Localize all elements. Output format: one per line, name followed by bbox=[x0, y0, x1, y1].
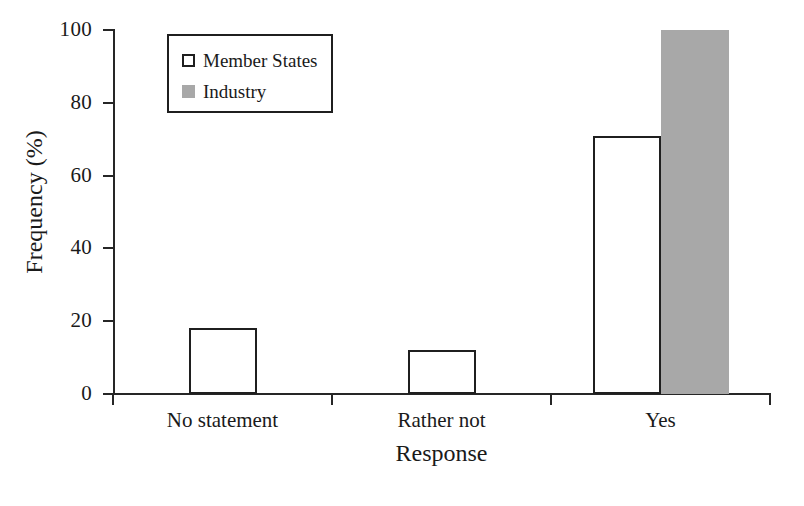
x-axis-tick bbox=[550, 394, 552, 405]
x-axis-tick-label: Yes bbox=[645, 408, 676, 432]
bar-member-states-yes bbox=[593, 136, 661, 394]
legend-entry-industry: Industry bbox=[182, 76, 331, 107]
bar-member-states-no-statement bbox=[189, 328, 257, 394]
x-axis-title: Response bbox=[113, 440, 770, 466]
bar-chart-figure: 020406080100 No statementRather notYes F… bbox=[0, 0, 804, 506]
legend-label-member-states: Member States bbox=[203, 51, 318, 70]
y-axis-tick-label: 60 bbox=[70, 165, 92, 186]
x-axis-tick bbox=[112, 394, 114, 405]
y-axis-tick-label: 0 bbox=[81, 383, 92, 404]
y-axis-tick-label: 40 bbox=[70, 237, 92, 258]
bar-member-states-rather-not bbox=[408, 350, 476, 394]
y-axis-tick-label: 20 bbox=[70, 310, 92, 331]
x-axis-tick-label: Rather not bbox=[397, 408, 485, 432]
legend-entry-member-states: Member States bbox=[182, 45, 331, 76]
x-axis-tick bbox=[331, 394, 333, 405]
chart-legend: Member States Industry bbox=[167, 34, 333, 113]
x-axis-tick bbox=[769, 394, 771, 405]
y-axis-tick-label: 100 bbox=[60, 19, 92, 40]
filled-gray-square-swatch-icon bbox=[182, 85, 195, 98]
legend-label-industry: Industry bbox=[203, 82, 266, 101]
y-axis-title: Frequency (%) bbox=[21, 72, 47, 332]
open-square-swatch-icon bbox=[182, 54, 195, 67]
bar-industry-yes bbox=[661, 30, 729, 394]
y-axis-tick-label: 80 bbox=[70, 92, 92, 113]
x-axis-tick-label: No statement bbox=[167, 408, 278, 432]
